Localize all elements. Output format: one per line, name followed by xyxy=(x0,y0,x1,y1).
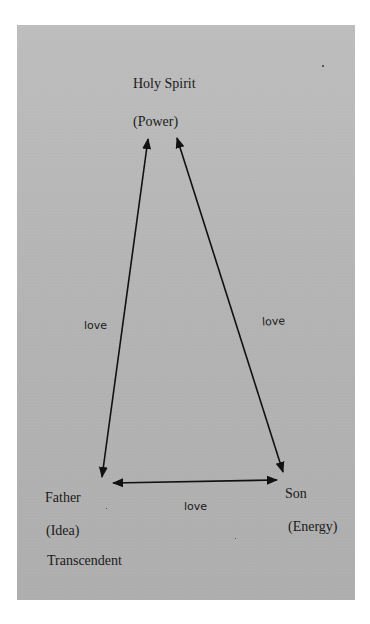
node-holy-spirit-name: Holy Spirit xyxy=(133,76,196,92)
edge-label-father-holy-spirit: love xyxy=(84,319,107,332)
scan-speck xyxy=(322,65,324,67)
node-father-note: Transcendent xyxy=(47,553,122,569)
edge-label-son-holy-spirit: love xyxy=(262,314,286,328)
scan-speck xyxy=(235,538,236,539)
arrow-father-son xyxy=(113,480,277,483)
arrow-son-holy-spirit xyxy=(177,138,283,472)
node-father-attribute: (Idea) xyxy=(46,523,79,539)
scan-speck xyxy=(106,508,107,509)
node-son-attribute: (Energy) xyxy=(288,519,338,535)
node-father-name: Father xyxy=(45,490,81,506)
edge-label-father-son: love xyxy=(184,500,207,513)
arrow-father-holy-spirit xyxy=(102,139,148,477)
node-son-name: Son xyxy=(285,486,307,502)
node-holy-spirit-attribute: (Power) xyxy=(133,114,178,130)
